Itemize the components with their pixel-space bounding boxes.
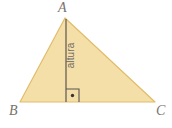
triangle-shape xyxy=(20,18,155,102)
vertex-label-a: A xyxy=(58,1,67,15)
right-angle-dot-icon xyxy=(71,94,74,97)
geometry-figure: A B C altura xyxy=(0,0,172,128)
triangle-diagram-svg xyxy=(0,0,172,128)
vertex-label-c: C xyxy=(156,104,165,118)
altitude-label: altura xyxy=(65,33,76,79)
vertex-label-b: B xyxy=(9,104,18,118)
